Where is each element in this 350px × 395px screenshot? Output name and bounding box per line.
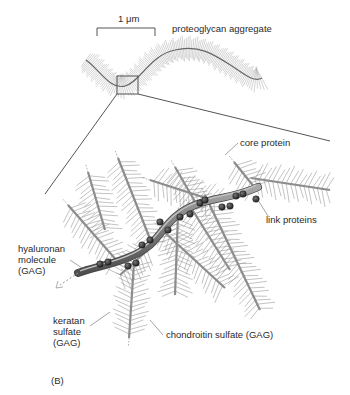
overview-aggregate <box>81 36 268 100</box>
hyaluronan-label-line3: (GAG) <box>18 265 65 276</box>
scale-bar <box>97 28 155 36</box>
hyaluronan-label: hyaluronan molecule (GAG) <box>18 243 65 276</box>
link-proteins-label: link proteins <box>266 214 317 225</box>
keratan-sulfate-label: keratan sulfate (GAG) <box>53 315 85 348</box>
hyaluronan-label-line2: molecule <box>18 254 65 265</box>
core-protein-label: core protein <box>240 137 290 148</box>
keratan-label-line2: sulfate <box>53 326 85 337</box>
chondroitin-sulfate-label: chondroitin sulfate (GAG) <box>166 329 273 340</box>
scale-bar-label: 1 μm <box>118 13 139 24</box>
panel-label: (B) <box>51 375 64 386</box>
overview-title: proteoglycan aggregate <box>172 23 272 34</box>
keratan-label-line3: (GAG) <box>53 337 85 348</box>
hyaluronan-molecule <box>56 185 258 288</box>
hyaluronan-label-line1: hyaluronan <box>18 243 65 254</box>
keratan-label-line1: keratan <box>53 315 85 326</box>
